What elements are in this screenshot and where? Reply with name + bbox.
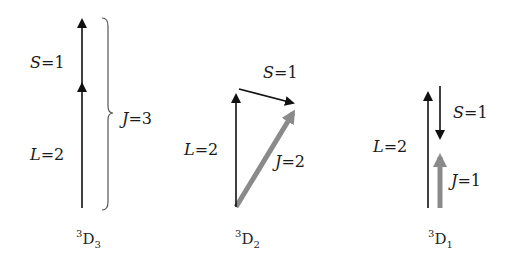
panel-3d3: S=1 L=2 J=3 3D3	[29, 18, 152, 250]
term-symbol: 3D2	[235, 228, 260, 250]
s-label: S=1	[263, 63, 298, 82]
term-symbol: 3D3	[76, 228, 101, 250]
j-label: J=2	[272, 152, 305, 171]
l-label: L=2	[372, 137, 407, 156]
s-vector-arrow	[239, 89, 293, 103]
panel-3d1: L=2 S=1 J=1 3D1	[372, 86, 488, 250]
s-label: S=1	[453, 103, 488, 122]
l-label: L=2	[183, 140, 218, 159]
l-label: L=2	[29, 145, 64, 164]
term-symbol: 3D1	[428, 228, 453, 250]
panel-3d2: S=1 L=2 J=2 3D2	[183, 63, 305, 250]
j-brace-icon	[102, 18, 113, 210]
ls-coupling-diagram: S=1 L=2 J=3 3D3 S=1 L=2 J=2 3D2 L=2 S=1 …	[0, 0, 517, 263]
s-label: S=1	[30, 53, 65, 72]
j-label: J=3	[119, 109, 152, 128]
j-label: J=1	[448, 171, 481, 190]
